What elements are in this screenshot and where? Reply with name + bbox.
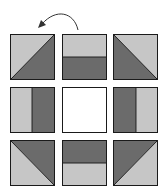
tile-bottom-right-hst bbox=[113, 140, 158, 186]
tile-middle-left-strip bbox=[10, 87, 55, 133]
tile-top-center-strip bbox=[62, 34, 107, 80]
tile-center-plain bbox=[62, 87, 107, 133]
tile-bottom-center-strip bbox=[62, 140, 107, 186]
tile-top-right-hst bbox=[113, 34, 158, 80]
tile-middle-right-strip bbox=[113, 87, 158, 133]
tile-bottom-left-hst bbox=[10, 140, 55, 186]
rotation-arrow-icon bbox=[30, 4, 90, 34]
tile-top-left-hst bbox=[10, 34, 55, 80]
